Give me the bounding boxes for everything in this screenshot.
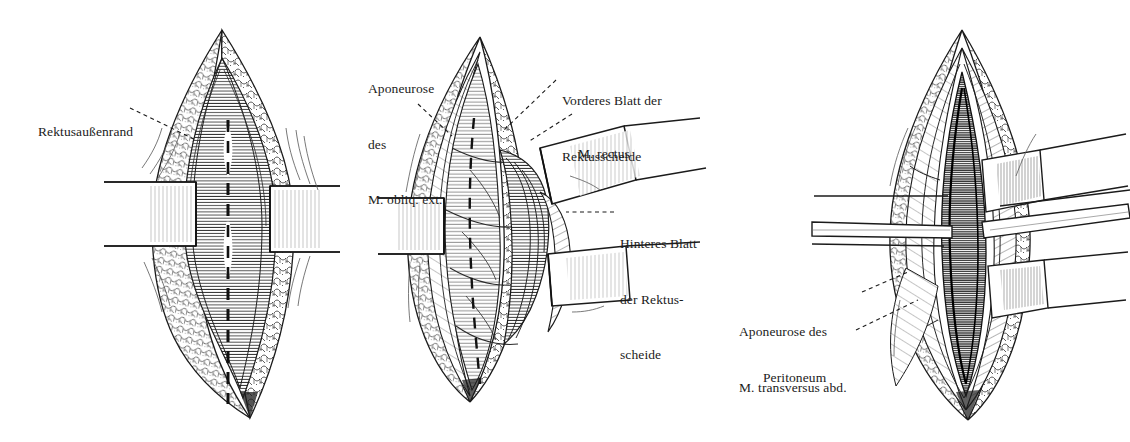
panel-1-retractor-right	[270, 186, 340, 252]
label-m-rectus: M. rectus	[578, 108, 630, 201]
label-hinteres-blatt-rektusscheide: Hinteres Blatt der Rektus- scheide	[620, 198, 697, 402]
label-rektusaussenrand: Rektusaußenrand	[38, 86, 133, 179]
panel-1-retractor-left	[104, 182, 196, 246]
label-peritoneum: Peritoneum	[763, 332, 826, 425]
leader-vorderes-blatt	[504, 80, 556, 130]
illustration-page: Rektusaußenrand Aponeurose des M. obliq.…	[0, 0, 1130, 442]
panel-3-illustration	[812, 30, 1130, 420]
panel-1-illustration	[104, 30, 340, 418]
label-aponeurose-obliq-ext: Aponeurose des M. obliq. ext.	[368, 43, 443, 247]
